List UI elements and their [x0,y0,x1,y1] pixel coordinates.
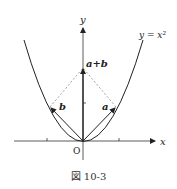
y-axis-label: y [79,14,86,25]
vector-b-arrow [51,108,83,141]
vector-a-label: a [102,101,108,112]
curve-label: y = x² [138,30,166,40]
vector-parabola-diagram: x y O y = x² a b a+b [0,0,177,189]
origin-label: O [73,146,80,156]
figure-caption: 図 10-3 [0,168,177,183]
vector-b-label: b [59,101,66,112]
vector-a-plus-b-label: a+b [86,58,108,69]
vector-a-arrow [83,108,115,141]
x-axis-label: x [160,136,166,147]
